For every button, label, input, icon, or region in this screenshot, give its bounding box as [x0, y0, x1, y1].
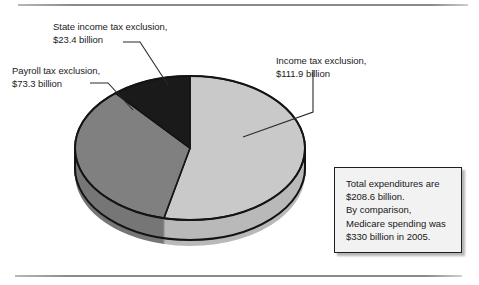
slice-label-state-income-tax-exclusion: State income tax exclusion, $23.4 billio… — [53, 21, 167, 46]
note-line: Medicare spending was — [346, 217, 452, 230]
pie-top-face — [75, 76, 305, 220]
summary-note-box: Total expenditures are $208.6 billion. B… — [334, 167, 462, 253]
note-line: Total expenditures are — [346, 177, 452, 190]
note-line: $208.6 billion. — [346, 190, 452, 203]
bottom-divider-rule — [15, 275, 462, 277]
note-line: $330 billion in 2005. — [346, 230, 452, 243]
pie-chart: State income tax exclusion, $23.4 billio… — [0, 0, 479, 285]
slice-label-income-tax-exclusion: Income tax exclusion, $111.9 billion — [276, 55, 366, 80]
slice-label-payroll-tax-exclusion: Payroll tax exclusion, $73.3 billion — [12, 65, 100, 90]
note-line: By comparison, — [346, 203, 452, 216]
